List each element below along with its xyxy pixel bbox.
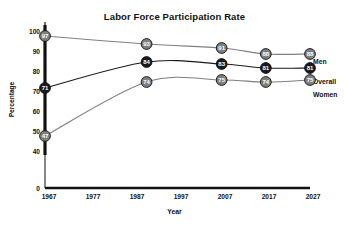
marker-value-label: 84 [143, 59, 150, 65]
data-point-marker[interactable]: 88 [260, 49, 271, 60]
series-layer: 979391888871848381814774757475 [40, 31, 316, 142]
data-point-marker[interactable]: 74 [260, 77, 271, 88]
data-point-marker[interactable]: 71 [40, 83, 51, 94]
data-point-marker[interactable]: 83 [216, 59, 227, 70]
data-point-marker[interactable]: 97 [40, 31, 51, 42]
marker-value-label: 83 [218, 61, 225, 67]
series-men: 9793918888 [40, 31, 316, 60]
data-point-marker[interactable]: 75 [305, 75, 316, 86]
plot-area: 979391888871848381814774757475 [0, 0, 349, 231]
data-point-marker[interactable]: 84 [141, 57, 152, 68]
marker-value-label: 47 [42, 133, 49, 139]
marker-value-label: 71 [42, 85, 49, 91]
marker-value-label: 74 [143, 79, 150, 85]
marker-value-label: 75 [307, 77, 314, 83]
data-point-marker[interactable]: 81 [305, 63, 316, 74]
series-overall: 7184838181 [40, 57, 316, 94]
line-women [45, 77, 310, 136]
data-point-marker[interactable]: 75 [216, 75, 227, 86]
marker-value-label: 81 [307, 65, 314, 71]
marker-value-label: 97 [42, 33, 49, 39]
data-point-marker[interactable]: 88 [305, 49, 316, 60]
marker-value-label: 93 [143, 41, 150, 47]
data-point-marker[interactable]: 91 [216, 43, 227, 54]
series-women: 4774757475 [40, 75, 316, 142]
data-point-marker[interactable]: 47 [40, 131, 51, 142]
data-point-marker[interactable]: 93 [141, 39, 152, 50]
data-point-marker[interactable]: 74 [141, 77, 152, 88]
marker-value-label: 81 [262, 65, 269, 71]
chart-container: Labor Force Participation Rate Percentag… [0, 0, 349, 231]
marker-value-label: 88 [307, 51, 314, 57]
data-point-marker[interactable]: 81 [260, 63, 271, 74]
marker-value-label: 74 [262, 79, 269, 85]
marker-value-label: 91 [218, 45, 225, 51]
marker-value-label: 88 [262, 51, 269, 57]
marker-value-label: 75 [218, 77, 225, 83]
